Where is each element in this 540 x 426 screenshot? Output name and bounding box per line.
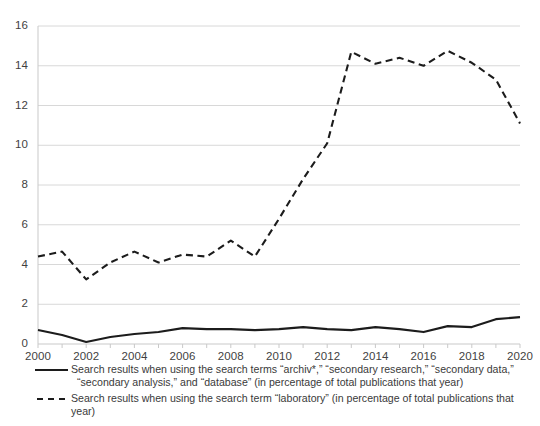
series-line-laboratory bbox=[38, 51, 520, 280]
y-axis-tick-label: 10 bbox=[0, 138, 28, 150]
y-axis-tick-label: 4 bbox=[0, 258, 28, 270]
legend-item-archiv-secondary-line2: “secondary analysis,” and “database” (in… bbox=[71, 376, 533, 389]
solid-line-swatch-icon bbox=[35, 369, 68, 371]
chart-figure: 0246810121416 20002002200420062008201020… bbox=[0, 0, 540, 426]
x-axis-tick-label: 2010 bbox=[259, 350, 299, 362]
y-axis-tick-label: 8 bbox=[0, 178, 28, 190]
x-axis-tick-label: 2014 bbox=[355, 350, 395, 362]
legend-item-laboratory-line1: Search results when using the search ter… bbox=[71, 392, 533, 418]
series-lines bbox=[38, 51, 520, 342]
dashed-line-swatch-icon bbox=[37, 398, 65, 400]
x-axis-tick-label: 2016 bbox=[404, 350, 444, 362]
y-axis-tick-label: 14 bbox=[0, 59, 28, 71]
x-axis-tick-label: 2020 bbox=[500, 350, 540, 362]
y-axis-tick-label: 16 bbox=[0, 19, 28, 31]
x-axis-tick-label: 2012 bbox=[307, 350, 347, 362]
gridlines bbox=[38, 26, 520, 304]
x-axis-tick-label: 2000 bbox=[18, 350, 58, 362]
x-axis-tick-label: 2018 bbox=[452, 350, 492, 362]
y-axis-tick-label: 0 bbox=[0, 337, 28, 349]
legend-item-laboratory: Search results when using the search ter… bbox=[33, 392, 533, 418]
x-axis-tick-label: 2002 bbox=[66, 350, 106, 362]
chart-legend: Search results when using the search ter… bbox=[33, 363, 533, 418]
y-axis-tick-label: 12 bbox=[0, 99, 28, 111]
y-axis-tick-label: 2 bbox=[0, 297, 28, 309]
legend-item-archiv-secondary-line1: Search results when using the search ter… bbox=[71, 363, 533, 376]
x-axis-tick-label: 2008 bbox=[211, 350, 251, 362]
legend-item-archiv-secondary: Search results when using the search ter… bbox=[33, 363, 533, 389]
series-line-archiv-secondary-database bbox=[38, 317, 520, 342]
x-axis-tick-label: 2004 bbox=[114, 350, 154, 362]
y-axis-tick-label: 6 bbox=[0, 218, 28, 230]
x-axis-tick-label: 2006 bbox=[163, 350, 203, 362]
x-axis-ticks bbox=[38, 344, 520, 348]
